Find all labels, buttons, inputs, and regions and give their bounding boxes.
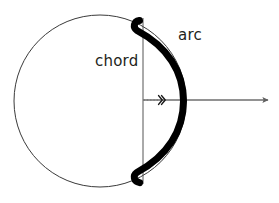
chord-label: chord: [95, 54, 138, 69]
arc-label: arc: [178, 28, 202, 43]
circle-outline: [14, 15, 186, 187]
circle-arc-chord-figure: [0, 0, 279, 203]
geometry-diagram: chord arc: [0, 0, 279, 203]
